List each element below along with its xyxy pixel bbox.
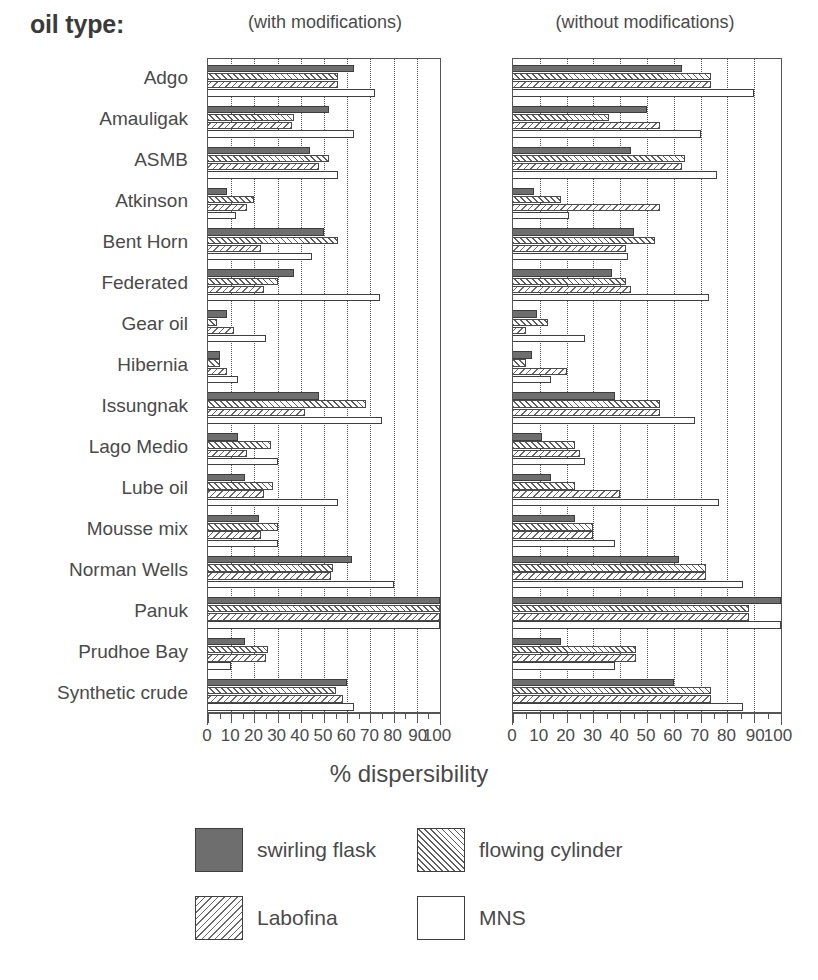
bar-group bbox=[208, 509, 440, 550]
x-tick-label: 100 bbox=[764, 726, 792, 746]
legend-label: Labofina bbox=[257, 906, 338, 930]
x-tick-label: 20 bbox=[244, 726, 263, 746]
x-axis-title: % dispersibility bbox=[0, 760, 818, 788]
bar bbox=[513, 687, 711, 694]
bar-group bbox=[513, 591, 781, 632]
bar bbox=[513, 188, 534, 195]
bar-group bbox=[208, 59, 440, 100]
bar bbox=[513, 400, 660, 407]
bar bbox=[208, 310, 227, 317]
bar bbox=[208, 163, 319, 170]
bar bbox=[208, 581, 394, 588]
bar-group bbox=[513, 223, 781, 264]
bar-group bbox=[513, 509, 781, 550]
legend-item-labofina: Labofina bbox=[195, 896, 338, 940]
bar bbox=[208, 65, 354, 72]
axis-tick-minor bbox=[580, 714, 581, 719]
plot-panel-with-modifications bbox=[207, 58, 441, 713]
bar bbox=[513, 89, 754, 96]
axis-tick bbox=[593, 714, 594, 723]
bar bbox=[513, 269, 612, 276]
bar bbox=[208, 679, 347, 686]
bar bbox=[513, 638, 561, 645]
bar bbox=[513, 499, 719, 506]
category-label: ASMB bbox=[134, 150, 188, 169]
x-tick-label: 0 bbox=[507, 726, 516, 746]
x-tick-label: 60 bbox=[663, 726, 682, 746]
bar bbox=[208, 515, 259, 522]
axis-tick bbox=[781, 714, 782, 723]
x-tick-label: 10 bbox=[221, 726, 240, 746]
axis-tick bbox=[324, 714, 325, 723]
bar bbox=[513, 433, 542, 440]
category-axis-labels: AdgoAmauligakASMBAtkinsonBent HornFedera… bbox=[0, 58, 196, 713]
bar bbox=[208, 409, 305, 416]
x-axis-right bbox=[512, 713, 782, 725]
legend-item-mns: MNS bbox=[417, 896, 526, 940]
category-label: Adgo bbox=[144, 68, 188, 87]
axis-tick bbox=[254, 714, 255, 723]
bar bbox=[208, 171, 338, 178]
x-tick-label: 40 bbox=[290, 726, 309, 746]
bar-group bbox=[208, 346, 440, 387]
bar bbox=[513, 278, 626, 285]
bar bbox=[208, 597, 440, 604]
category-label: Prudhoe Bay bbox=[78, 642, 188, 661]
x-tick-label: 60 bbox=[337, 726, 356, 746]
bar bbox=[513, 572, 706, 579]
bar bbox=[208, 106, 329, 113]
bar bbox=[208, 351, 220, 358]
bar-group bbox=[208, 550, 440, 591]
bar bbox=[513, 155, 685, 162]
legend-swatch-icon bbox=[195, 828, 243, 872]
bar-group bbox=[208, 673, 440, 713]
bar bbox=[208, 73, 338, 80]
bar bbox=[208, 662, 231, 669]
bar-group bbox=[208, 223, 440, 264]
x-tick-label: 90 bbox=[746, 726, 765, 746]
bar bbox=[513, 540, 615, 547]
legend-label: swirling flask bbox=[257, 838, 376, 862]
bar bbox=[208, 638, 245, 645]
category-label: Lago Medio bbox=[89, 437, 188, 456]
bar bbox=[513, 695, 711, 702]
category-label: Federated bbox=[101, 273, 188, 292]
bar bbox=[208, 621, 440, 628]
axis-tick-minor bbox=[405, 714, 406, 719]
bar bbox=[208, 253, 312, 260]
bar bbox=[513, 605, 749, 612]
x-tick-label: 0 bbox=[202, 726, 211, 746]
bar-group bbox=[208, 632, 440, 673]
bar bbox=[513, 482, 575, 489]
bar bbox=[513, 531, 593, 538]
bar bbox=[513, 204, 660, 211]
bar-group bbox=[208, 468, 440, 509]
bar bbox=[208, 531, 261, 538]
bar bbox=[208, 327, 234, 334]
bar-group bbox=[208, 387, 440, 428]
bar bbox=[513, 122, 660, 129]
bar bbox=[513, 621, 781, 628]
legend-label: MNS bbox=[479, 906, 526, 930]
bar-group bbox=[208, 591, 440, 632]
bar bbox=[513, 392, 615, 399]
axis-tick bbox=[347, 714, 348, 723]
bar bbox=[513, 237, 655, 244]
bar bbox=[513, 81, 711, 88]
x-tick-label: 70 bbox=[690, 726, 709, 746]
bar-group bbox=[513, 550, 781, 591]
bar bbox=[208, 654, 266, 661]
bar bbox=[513, 409, 660, 416]
bar bbox=[208, 376, 238, 383]
bar bbox=[208, 556, 352, 563]
axis-tick bbox=[727, 714, 728, 723]
bar-group bbox=[513, 673, 781, 713]
bar bbox=[513, 441, 575, 448]
category-label: Synthetic crude bbox=[57, 683, 188, 702]
bar bbox=[513, 319, 548, 326]
bar bbox=[208, 499, 338, 506]
bar bbox=[208, 474, 245, 481]
bar bbox=[208, 490, 264, 497]
chart-root: oil type: (with modifications) (without … bbox=[0, 0, 818, 980]
axis-tick-minor bbox=[359, 714, 360, 719]
